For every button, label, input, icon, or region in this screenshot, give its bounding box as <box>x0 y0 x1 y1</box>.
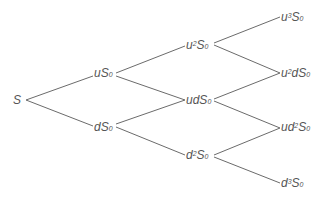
edge-uS0-u2S0 <box>116 46 185 73</box>
edge-udS0-u2dS0 <box>214 73 280 99</box>
node-pre: u <box>281 66 288 80</box>
node-sub: 0 <box>300 181 304 188</box>
node-ud2S0: ud2S0 <box>281 121 310 133</box>
node-sup: 2 <box>193 40 197 47</box>
node-sup: 2 <box>288 68 292 75</box>
node-base: S <box>197 148 205 162</box>
node-pre: u <box>94 66 101 80</box>
node-base: S <box>292 176 300 190</box>
tree-edges <box>0 0 320 200</box>
edge-d2S0-d3S0 <box>214 157 280 183</box>
node-pre: S <box>13 93 21 107</box>
edge-d2S0-ud2S0 <box>214 128 280 155</box>
node-pre: d <box>186 148 193 162</box>
node-pre: d <box>281 176 288 190</box>
node-base: S <box>101 120 109 134</box>
node-pre: ud <box>281 120 294 134</box>
node-pre: d <box>94 120 101 134</box>
node-base: S <box>101 66 109 80</box>
node-pre: u <box>281 10 288 24</box>
node-sub: 0 <box>207 98 211 105</box>
node-sub: 0 <box>109 71 113 78</box>
node-sub: 0 <box>306 125 310 132</box>
node-S: S <box>13 94 21 106</box>
node-uS0: uS0 <box>94 67 113 79</box>
node-sup: 2 <box>193 150 197 157</box>
edge-S-dS0 <box>26 100 93 126</box>
node-sub: 0 <box>306 71 310 78</box>
node-u2dS0: u2dS0 <box>281 67 310 79</box>
edge-u2S0-u2dS0 <box>214 45 280 73</box>
edge-uS0-udS0 <box>116 76 185 100</box>
edge-dS0-d2S0 <box>116 127 185 155</box>
node-sub: 0 <box>109 125 113 132</box>
edge-S-uS0 <box>26 76 93 100</box>
node-dS0: dS0 <box>94 121 113 133</box>
node-d3S0: d3S0 <box>281 177 304 189</box>
node-d2S0: d2S0 <box>186 149 209 161</box>
node-base: S <box>292 10 300 24</box>
node-sub: 0 <box>205 43 209 50</box>
edge-dS0-udS0 <box>116 100 185 124</box>
node-sup: 2 <box>294 122 298 129</box>
edge-udS0-ud2S0 <box>214 101 280 128</box>
node-sup: 3 <box>288 178 292 185</box>
node-u3S0: u3S0 <box>281 11 304 23</box>
node-sub: 0 <box>205 153 209 160</box>
node-u2S0: u2S0 <box>186 39 209 51</box>
node-base: S <box>197 38 205 52</box>
node-pre: u <box>186 38 193 52</box>
node-sub: 0 <box>300 15 304 22</box>
node-pre: ud <box>186 93 199 107</box>
edge-u2S0-u3S0 <box>214 17 280 43</box>
node-udS0: udS0 <box>186 94 211 106</box>
node-sup: 3 <box>288 12 292 19</box>
